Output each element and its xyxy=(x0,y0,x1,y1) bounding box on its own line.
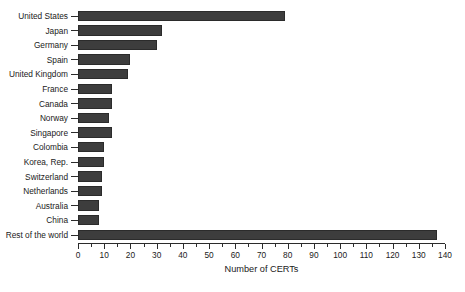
bar-row xyxy=(78,24,445,39)
bar-row xyxy=(78,53,445,68)
bar-colombia xyxy=(78,142,104,152)
y-axis-label-13: Australia xyxy=(0,199,68,214)
y-axis-label-8: Singapore xyxy=(0,126,68,141)
x-tick-minor-65 xyxy=(248,244,249,247)
y-axis-label-11: Switzerland xyxy=(0,170,68,185)
x-tick-minor-55 xyxy=(222,244,223,247)
bar-row xyxy=(78,199,445,214)
x-tick-minor-135 xyxy=(432,244,433,247)
y-tick-4 xyxy=(71,67,78,82)
y-tick-3 xyxy=(71,53,78,68)
bar-row xyxy=(78,213,445,228)
x-tick-major-10 xyxy=(104,244,105,249)
x-axis-tick-labels: 0102030405060708090100110120130140 xyxy=(78,250,445,262)
x-tick-minor-125 xyxy=(406,244,407,247)
x-tick-major-110 xyxy=(366,244,367,249)
y-tick-mark-icon xyxy=(71,147,78,148)
bar-korea-rep xyxy=(78,157,104,167)
y-tick-2 xyxy=(71,38,78,53)
y-tick-mark-icon xyxy=(71,191,78,192)
bar-china xyxy=(78,215,99,225)
y-tick-15 xyxy=(71,228,78,243)
y-axis-label-6: Canada xyxy=(0,97,68,112)
x-tick-minor-35 xyxy=(170,244,171,247)
bar-row xyxy=(78,228,445,243)
bar-france xyxy=(78,84,112,94)
y-axis-label-3: Spain xyxy=(0,53,68,68)
y-tick-5 xyxy=(71,82,78,97)
bar-spain xyxy=(78,54,130,64)
x-tick-label-30: 30 xyxy=(152,250,161,260)
x-tick-label-50: 50 xyxy=(204,250,213,260)
y-tick-7 xyxy=(71,111,78,126)
x-tick-major-50 xyxy=(209,244,210,249)
x-tick-major-100 xyxy=(340,244,341,249)
y-tick-mark-icon xyxy=(71,74,78,75)
bar-australia xyxy=(78,200,99,210)
x-tick-label-100: 100 xyxy=(333,250,347,260)
y-axis-label-5: France xyxy=(0,82,68,97)
bar-row xyxy=(78,170,445,185)
y-tick-mark-icon xyxy=(71,103,78,104)
bar-row xyxy=(78,9,445,24)
x-tick-minor-105 xyxy=(353,244,354,247)
y-tick-8 xyxy=(71,126,78,141)
y-axis-tick-marks xyxy=(71,9,78,243)
x-tick-major-130 xyxy=(419,244,420,249)
y-tick-6 xyxy=(71,97,78,112)
x-tick-major-70 xyxy=(262,244,263,249)
x-tick-minor-95 xyxy=(327,244,328,247)
bar-norway xyxy=(78,113,109,123)
y-axis-label-1: Japan xyxy=(0,24,68,39)
y-axis-label-7: Norway xyxy=(0,111,68,126)
x-tick-major-60 xyxy=(235,244,236,249)
y-tick-11 xyxy=(71,170,78,185)
bar-row xyxy=(78,67,445,82)
y-axis-label-15: Rest of the world xyxy=(0,228,68,243)
y-tick-mark-icon xyxy=(71,176,78,177)
x-tick-major-90 xyxy=(314,244,315,249)
y-tick-mark-icon xyxy=(71,132,78,133)
x-axis-title: Number of CERTs xyxy=(78,264,445,274)
bar-japan xyxy=(78,25,162,35)
x-tick-label-90: 90 xyxy=(309,250,318,260)
x-tick-label-0: 0 xyxy=(76,250,81,260)
x-tick-label-40: 40 xyxy=(178,250,187,260)
x-tick-major-0 xyxy=(78,244,79,249)
y-tick-9 xyxy=(71,140,78,155)
x-tick-minor-75 xyxy=(275,244,276,247)
y-axis-label-0: United States xyxy=(0,9,68,24)
x-tick-major-140 xyxy=(445,244,446,249)
y-axis-label-12: Netherlands xyxy=(0,184,68,199)
y-tick-mark-icon xyxy=(71,235,78,236)
plot-area xyxy=(78,9,445,243)
y-axis-label-9: Colombia xyxy=(0,140,68,155)
y-tick-12 xyxy=(71,184,78,199)
bar-germany xyxy=(78,40,157,50)
x-tick-minor-25 xyxy=(144,244,145,247)
x-tick-label-60: 60 xyxy=(231,250,240,260)
x-tick-label-110: 110 xyxy=(360,250,373,260)
x-tick-major-30 xyxy=(157,244,158,249)
x-tick-minor-85 xyxy=(301,244,302,247)
x-tick-label-140: 140 xyxy=(438,250,452,260)
bar-united-states xyxy=(78,11,285,21)
x-tick-major-80 xyxy=(288,244,289,249)
y-tick-mark-icon xyxy=(71,89,78,90)
y-tick-mark-icon xyxy=(71,205,78,206)
y-axis-label-14: China xyxy=(0,213,68,228)
bar-row xyxy=(78,155,445,170)
bar-netherlands xyxy=(78,186,102,196)
y-tick-14 xyxy=(71,213,78,228)
y-axis-category-labels: United States Japan Germany Spain United… xyxy=(0,9,68,243)
y-tick-mark-icon xyxy=(71,162,78,163)
x-tick-label-20: 20 xyxy=(126,250,135,260)
x-tick-label-10: 10 xyxy=(100,250,109,260)
x-tick-label-130: 130 xyxy=(412,250,426,260)
y-axis-label-2: Germany xyxy=(0,38,68,53)
y-tick-10 xyxy=(71,155,78,170)
x-tick-minor-45 xyxy=(196,244,197,247)
bar-row xyxy=(78,184,445,199)
x-tick-major-120 xyxy=(393,244,394,249)
x-tick-minor-15 xyxy=(117,244,118,247)
